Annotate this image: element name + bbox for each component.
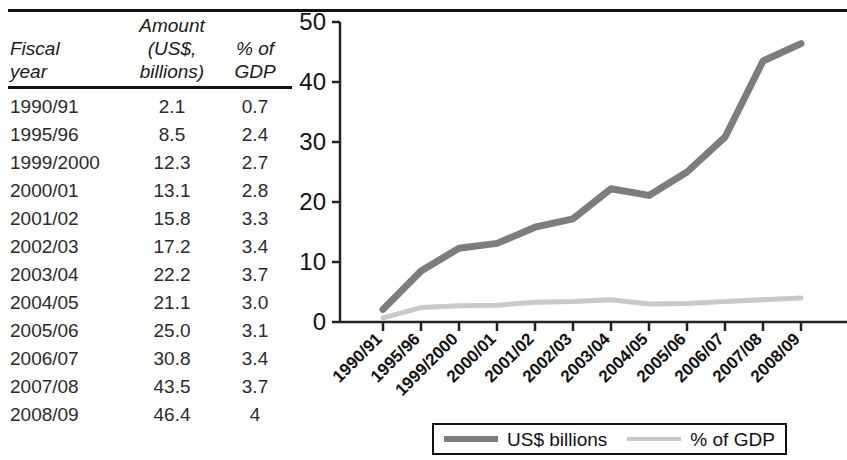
legend-swatch-icon [444,436,498,442]
chart-plot: 010203040501990/911995/961999/20002000/0… [295,12,847,460]
table-cell-amount: 2.1 [126,88,218,122]
table-cell-amount: 46.4 [126,401,218,429]
chart-legend: US$ billions% of GDP [432,423,787,455]
header-line: year [10,61,47,82]
table-cell-pct: 3.4 [218,233,292,261]
column-header-amount: Amount (US$, billions) [126,14,218,88]
table-cell-pct: 3.1 [218,317,292,345]
table-cell-amount: 25.0 [126,317,218,345]
table-cell-pct: 3.3 [218,205,292,233]
header-line: (US$, [148,38,197,59]
table-header-row: Fiscal year Amount (US$, billions) % of … [8,14,292,88]
legend-entry[interactable]: % of GDP [627,430,774,449]
table-cell-pct: 2.8 [218,177,292,205]
table-row: 2002/0317.23.4 [8,233,292,261]
legend-entry[interactable]: US$ billions [444,430,607,449]
aid-flows-table: Fiscal year Amount (US$, billions) % of … [8,14,292,429]
table-cell-amount: 22.2 [126,261,218,289]
y-axis-tick-label: 50 [299,12,326,35]
table-row: 2003/0422.23.7 [8,261,292,289]
table-row: 2001/0215.83.3 [8,205,292,233]
series-line [383,298,801,318]
table-cell-pct: 3.0 [218,289,292,317]
table-row: 1995/968.52.4 [8,121,292,149]
y-axis-tick-label: 30 [299,128,326,155]
table-cell-amount: 13.1 [126,177,218,205]
table-cell-pct: 3.7 [218,373,292,401]
table-cell-amount: 8.5 [126,121,218,149]
table-cell-amount: 43.5 [126,373,218,401]
table: Fiscal year Amount (US$, billions) % of … [8,14,292,429]
table-body: 1990/912.10.71995/968.52.41999/200012.32… [8,88,292,430]
table-cell-amount: 17.2 [126,233,218,261]
table-cell-year: 2000/01 [8,177,126,205]
table-cell-amount: 21.1 [126,289,218,317]
table-cell-pct: 2.7 [218,149,292,177]
table-cell-year: 2008/09 [8,401,126,429]
table-cell-year: 1990/91 [8,88,126,122]
table-row: 2004/0521.13.0 [8,289,292,317]
header-line: GDP [234,61,275,82]
table-cell-year: 2002/03 [8,233,126,261]
table-cell-pct: 3.7 [218,261,292,289]
header-line: % of [236,38,274,59]
table-cell-year: 2004/05 [8,289,126,317]
series-line [383,44,801,310]
header-line: billions) [140,61,204,82]
table-cell-pct: 0.7 [218,88,292,122]
y-axis-tick-label: 20 [299,188,326,215]
header-line: Amount [139,15,204,36]
y-axis-tick-label: 40 [299,68,326,95]
table-row: 2006/0730.83.4 [8,345,292,373]
table-header: Fiscal year Amount (US$, billions) % of … [8,14,292,88]
table-row: 2007/0843.53.7 [8,373,292,401]
table-cell-year: 1999/2000 [8,149,126,177]
header-line: Fiscal [10,38,60,59]
y-axis-tick-label: 0 [313,308,326,335]
table-cell-year: 1995/96 [8,121,126,149]
table-cell-year: 2001/02 [8,205,126,233]
table-row: 2005/0625.03.1 [8,317,292,345]
table-row: 2000/0113.12.8 [8,177,292,205]
legend-label: % of GDP [690,430,774,449]
column-header-pct-gdp: % of GDP [218,14,292,88]
table-row: 2008/0946.44 [8,401,292,429]
legend-label: US$ billions [507,430,607,449]
aid-flows-chart: 010203040501990/911995/961999/20002000/0… [295,12,847,460]
table-cell-amount: 15.8 [126,205,218,233]
table-cell-pct: 4 [218,401,292,429]
column-header-fiscal-year: Fiscal year [8,14,126,88]
table-cell-year: 2006/07 [8,345,126,373]
table-cell-amount: 30.8 [126,345,218,373]
table-cell-pct: 2.4 [218,121,292,149]
table-cell-year: 2007/08 [8,373,126,401]
table-cell-year: 2003/04 [8,261,126,289]
legend-swatch-icon [627,437,681,441]
table-cell-amount: 12.3 [126,149,218,177]
y-axis-tick-label: 10 [299,248,326,275]
table-cell-year: 2005/06 [8,317,126,345]
table-cell-pct: 3.4 [218,345,292,373]
table-row: 1999/200012.32.7 [8,149,292,177]
table-row: 1990/912.10.7 [8,88,292,122]
